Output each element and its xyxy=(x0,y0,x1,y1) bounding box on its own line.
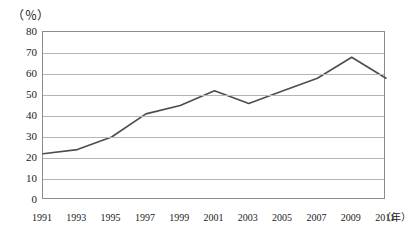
x-axis-tick: 2005 xyxy=(272,212,292,223)
y-axis-tick: 50 xyxy=(26,89,37,100)
x-axis-tick: 1995 xyxy=(101,212,121,223)
x-axis-tick: 1999 xyxy=(169,212,189,223)
x-axis-tick: 2001 xyxy=(204,212,224,223)
gridline xyxy=(43,95,384,96)
gridline xyxy=(43,137,384,138)
x-axis-tick: 2009 xyxy=(341,212,361,223)
x-axis-tick: 2011 xyxy=(375,212,395,223)
y-axis-tick: 20 xyxy=(26,152,37,163)
gridline xyxy=(43,53,384,54)
plot-area xyxy=(42,31,385,199)
gridline xyxy=(43,179,384,180)
x-axis-tick: 1991 xyxy=(32,212,52,223)
x-axis-tick-labels: （年） 199119931995199719992001200320052007… xyxy=(0,201,396,225)
x-axis-tick: 1997 xyxy=(135,212,155,223)
y-axis-tick: 80 xyxy=(26,26,37,37)
y-axis-tick: 60 xyxy=(26,68,37,79)
gridline xyxy=(43,158,384,159)
y-axis-tick: 10 xyxy=(26,173,37,184)
x-axis-tick: 2007 xyxy=(306,212,326,223)
gridline xyxy=(43,116,384,117)
y-axis-unit-label: （％） xyxy=(12,6,50,24)
x-axis-tick: 1993 xyxy=(66,212,86,223)
y-axis-tick: 30 xyxy=(26,131,37,142)
gridline xyxy=(43,74,384,75)
y-axis-tick: 40 xyxy=(26,110,37,121)
x-axis-tick: 2003 xyxy=(238,212,258,223)
y-axis-tick-labels: 01020304050607080 xyxy=(0,31,42,199)
y-axis-tick: 70 xyxy=(26,47,37,58)
